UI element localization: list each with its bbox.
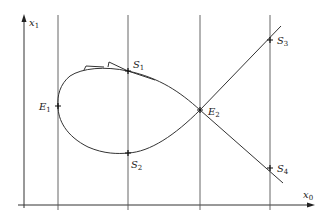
branch-to-S4 bbox=[200, 110, 283, 183]
x0-axis-label: x0 bbox=[303, 189, 313, 202]
x1-axis-arrow-icon bbox=[22, 14, 27, 22]
label-S1: S1 bbox=[133, 59, 144, 72]
marker-E1 bbox=[55, 103, 61, 109]
label-S2: S2 bbox=[131, 159, 142, 172]
labels: x1 x0 E1 S1 S2 E2 S3 S4 bbox=[29, 17, 313, 202]
tangent-S1 bbox=[128, 71, 155, 80]
section-lines bbox=[58, 15, 270, 210]
x1-axis-label: x1 bbox=[29, 17, 39, 30]
marker-S3 bbox=[267, 37, 273, 43]
label-S4: S4 bbox=[277, 163, 289, 176]
axes bbox=[18, 14, 315, 208]
label-E2: E2 bbox=[207, 106, 220, 119]
trajectory bbox=[58, 26, 283, 183]
marker-S1 bbox=[125, 68, 131, 74]
phase-diagram: x1 x0 E1 S1 S2 E2 S3 S4 bbox=[0, 0, 328, 220]
homoclinic-loop bbox=[58, 68, 200, 153]
point-markers bbox=[55, 37, 273, 171]
branch-to-S3 bbox=[200, 26, 281, 110]
x0-axis-arrow-icon bbox=[307, 203, 315, 208]
label-S3: S3 bbox=[277, 35, 288, 48]
marker-S2 bbox=[125, 150, 131, 156]
label-E1: E1 bbox=[38, 101, 51, 114]
